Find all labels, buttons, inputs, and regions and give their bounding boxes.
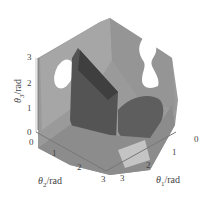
y-axis-title: θ2/rad xyxy=(38,176,62,190)
x-tick-2: 2 xyxy=(146,161,151,170)
y-tick-2: 2 xyxy=(77,163,82,172)
y-tick-3: 3 xyxy=(101,175,106,184)
z-tick-0: 0 xyxy=(27,128,32,137)
x-tick-3: 3 xyxy=(120,174,125,183)
z-tick-2: 2 xyxy=(27,79,32,88)
y-tick-1: 1 xyxy=(52,149,57,158)
x-tick-1: 1 xyxy=(172,148,177,157)
cspace-3d-plot: 3 2 1 0 θ3/rad 0 1 2 3 θ2/rad 0 1 2 3 θ1… xyxy=(0,0,210,198)
x-axis-title: θ1/rad xyxy=(156,175,180,189)
z-tick-3: 3 xyxy=(27,53,32,62)
surface-graphic xyxy=(0,0,210,198)
z-axis-title: θ3/rad xyxy=(13,79,27,103)
y-tick-0: 0 xyxy=(29,138,34,147)
x-tick-0: 0 xyxy=(194,135,199,144)
z-tick-1: 1 xyxy=(27,104,32,113)
